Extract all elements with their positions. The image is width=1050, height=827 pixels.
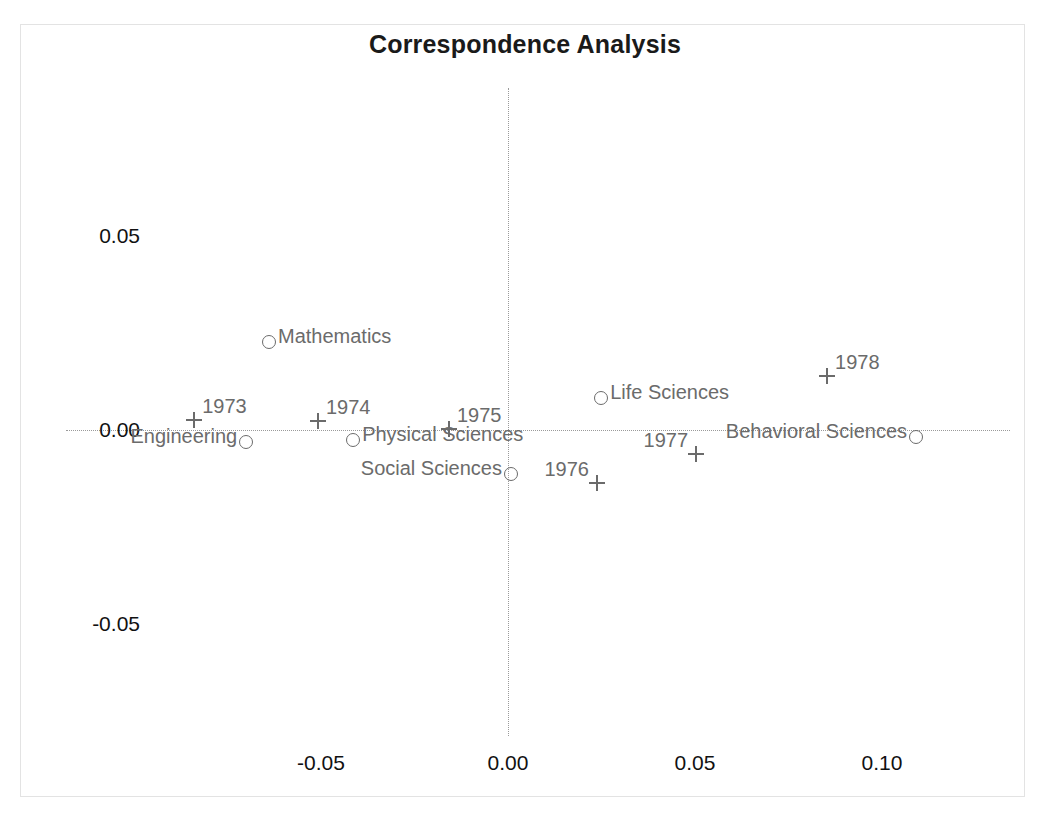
circle-marker-icon [262,335,276,349]
data-point-label: 1975 [457,405,502,425]
plus-marker-icon [310,413,326,429]
data-point-label: Behavioral Sciences [726,421,907,441]
circle-marker-icon [239,435,253,449]
circle-marker-icon [504,467,518,481]
data-point-label: 1976 [545,459,590,479]
y-axis-tick-label: 0.05 [99,224,140,248]
screenshot-root: Correspondence Analysis -0.050.000.050.1… [0,0,1050,827]
data-point-label: 1973 [202,396,247,416]
plus-marker-icon [589,475,605,491]
plus-marker-icon [819,368,835,384]
plus-marker-icon [688,446,704,462]
data-point-label: 1977 [644,430,689,450]
plus-marker-icon [186,412,202,428]
circle-marker-icon [346,433,360,447]
x-axis-tick-label: 0.00 [488,751,529,775]
circle-marker-icon [594,391,608,405]
circle-marker-icon [909,430,923,444]
data-point-label: Life Sciences [610,382,729,402]
data-point-label: 1978 [835,352,880,372]
data-point-label: Social Sciences [361,458,502,478]
x-axis-tick-label: 0.05 [675,751,716,775]
x-axis-tick-label: -0.05 [297,751,345,775]
y-axis-line [508,88,509,736]
data-point-label: Mathematics [278,326,391,346]
y-axis-tick-label: -0.05 [92,612,140,636]
scatter-plot-area: -0.050.000.050.100.050.00-0.05Mathematic… [0,0,1050,827]
x-axis-tick-label: 0.10 [862,751,903,775]
data-point-label: 1974 [326,397,371,417]
data-point-label: Engineering [130,426,237,446]
plus-marker-icon [441,421,457,437]
